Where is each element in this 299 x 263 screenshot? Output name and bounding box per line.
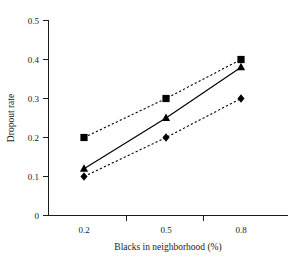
y-axis-ticks	[43, 21, 48, 216]
square-marker	[80, 134, 87, 141]
y-tick-label-0-3: 0.3	[28, 94, 40, 104]
series-line-middle	[84, 67, 241, 168]
y-tick-label-0-1: 0.1	[28, 172, 39, 182]
x-axis-title: Blacks in neighborhood (%)	[114, 242, 221, 253]
square-marker	[162, 95, 169, 102]
y-tick-label-0-2: 0.2	[28, 133, 39, 143]
y-tick-label-0-4: 0.4	[28, 55, 40, 65]
x-axis-ticks	[127, 216, 204, 221]
series-upper-squares	[80, 56, 244, 141]
dropout-rate-chart: 0.5 0.4 0.3 0.2 0.1 0 0.2 0.5 0.8 Dropou…	[0, 0, 299, 263]
triangle-marker	[80, 164, 88, 171]
triangle-marker	[237, 63, 245, 70]
diamond-marker	[237, 94, 244, 103]
y-tick-label-0-5: 0.5	[28, 16, 40, 26]
diamond-marker	[80, 172, 87, 181]
y-tick-label-0: 0	[35, 211, 40, 221]
x-tick-label-0-5: 0.5	[160, 225, 172, 235]
x-tick-label-0-8: 0.8	[235, 225, 247, 235]
chart-plot-area: 0.5 0.4 0.3 0.2 0.1 0 0.2 0.5 0.8 Dropou…	[0, 0, 299, 263]
y-axis-title: Dropout rate	[6, 94, 16, 142]
series-middle-triangles	[80, 63, 245, 172]
diamond-marker	[162, 133, 169, 142]
square-marker	[237, 56, 244, 63]
triangle-marker	[162, 114, 170, 121]
series-lower-diamonds	[80, 94, 244, 181]
x-tick-label-0-2: 0.2	[78, 225, 89, 235]
